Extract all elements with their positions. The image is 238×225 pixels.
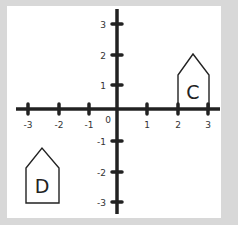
shape-c: C bbox=[178, 54, 209, 109]
y-tick-label: -3 bbox=[97, 198, 106, 208]
x-tick-label: 3 bbox=[205, 120, 211, 130]
x-tick-label: 1 bbox=[144, 120, 150, 130]
coordinate-plane: -3 -2 -1 1 2 3 0 3 2 1 -1 -2 -3 C D bbox=[0, 0, 238, 225]
x-tick-label: -1 bbox=[85, 120, 94, 130]
y-tick-label: 3 bbox=[100, 20, 106, 30]
shape-d: D bbox=[26, 148, 59, 203]
y-tick-label: -1 bbox=[97, 137, 106, 147]
y-tick-label: -2 bbox=[97, 168, 106, 178]
origin-label: 0 bbox=[105, 115, 111, 125]
x-tick-label: 2 bbox=[175, 120, 181, 130]
shape-c-label: C bbox=[186, 81, 199, 103]
x-tick-label: -3 bbox=[24, 120, 33, 130]
shape-d-label: D bbox=[35, 175, 50, 197]
x-tick-label: -2 bbox=[55, 120, 64, 130]
y-tick-label: 2 bbox=[100, 51, 106, 61]
y-tick-label: 1 bbox=[100, 81, 106, 91]
